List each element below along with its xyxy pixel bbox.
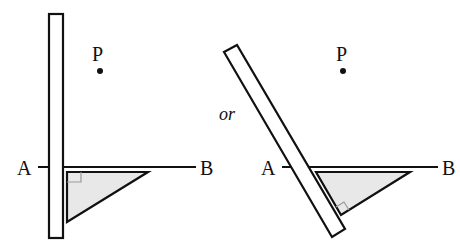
ruler-right	[224, 45, 345, 237]
label-a-left: A	[17, 157, 32, 179]
point-p-right	[340, 68, 346, 74]
point-p-left	[97, 68, 103, 74]
label-p-left: P	[92, 43, 103, 65]
set-square-left	[67, 172, 148, 222]
or-connector: or	[219, 104, 236, 124]
right-figure: A B P	[224, 43, 455, 237]
ruler-left	[49, 14, 63, 238]
left-figure: A B P	[17, 14, 213, 238]
label-p-right: P	[336, 43, 347, 65]
label-b-left: B	[200, 157, 213, 179]
label-a-right: A	[261, 157, 276, 179]
label-b-right: B	[442, 157, 455, 179]
diagram-canvas: A B P or A B P	[0, 0, 460, 250]
